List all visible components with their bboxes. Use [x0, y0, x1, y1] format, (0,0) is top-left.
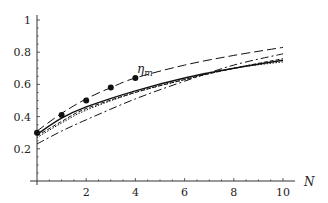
chart: 2468100.20.40.60.81 ηm N: [0, 0, 328, 203]
series-dash-dot: [37, 54, 283, 144]
y-tick-label: 1: [24, 14, 31, 27]
plot-area: 2468100.20.40.60.81 ηm N: [0, 0, 328, 203]
x-tick-label: 10: [276, 186, 290, 199]
eta-m-annotation: ηm: [137, 62, 153, 78]
series-dotted: [37, 62, 283, 138]
x-tick-label: 8: [230, 186, 237, 199]
y-tick-label: 0.8: [14, 46, 32, 59]
x-tick-label: 6: [181, 186, 188, 199]
y-tick-label: 0.4: [14, 111, 32, 124]
series-short-dash: [37, 59, 283, 136]
x-tick-label: 2: [83, 186, 90, 199]
x-tick-label: 4: [132, 186, 139, 199]
y-tick-label: 0.6: [14, 78, 32, 91]
y-tick-label: 0.2: [14, 143, 32, 156]
x-axis-label: N: [303, 175, 315, 189]
